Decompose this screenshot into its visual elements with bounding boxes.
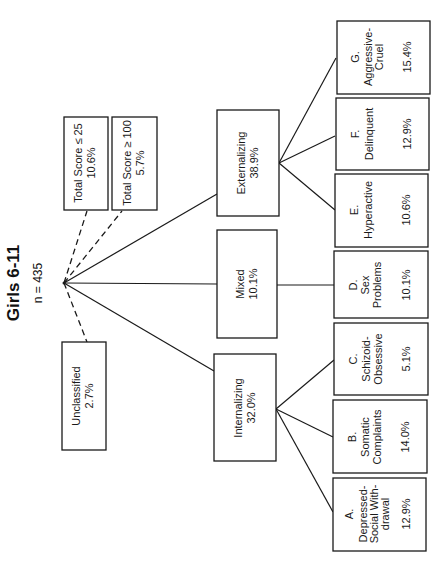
syndrome-name-line: Schizoid-	[360, 336, 372, 382]
node-label: Total Score ≥ 100	[121, 120, 133, 206]
syndrome-letter: A.	[343, 509, 355, 519]
edge-root-mixed	[64, 283, 217, 284]
node-label: Externalizing	[235, 132, 247, 195]
syndrome-name-line: Somatic	[359, 417, 371, 457]
node-label: Mixed	[234, 269, 246, 298]
syndrome-letter: D.	[347, 280, 359, 291]
syndrome-letter: G.	[349, 51, 361, 63]
diagram-title: Girls 6-11	[4, 245, 23, 322]
syndrome-letter: B.	[346, 432, 358, 442]
node-syndrome-B: B. Somatic Complaints 14.0%	[333, 400, 427, 473]
syndrome-letter: F.	[349, 130, 361, 139]
edge-int-A	[276, 409, 333, 512]
node-syndrome-E: E. Hyperactive 10.6%	[335, 174, 428, 247]
node-value: 10.1%	[247, 268, 259, 299]
node-syndrome-C: C. Schizoid- Obsessive 5.1%	[334, 323, 428, 395]
edge-ext-F	[279, 136, 335, 163]
node-value: 38.9%	[248, 147, 260, 178]
node-internalizing: Internalizing 32.0%	[214, 354, 276, 461]
node-value: 32.0%	[245, 392, 257, 423]
edge-int-B	[276, 409, 333, 437]
syndrome-value: 15.4%	[401, 41, 413, 72]
syndrome-value: 14.0%	[399, 421, 411, 452]
node-value: 10.6%	[85, 147, 97, 178]
node-syndrome-A: A. Depressed- Social With- drawal 12.9%	[333, 478, 426, 551]
node-label: Unclassified	[70, 366, 82, 425]
syndrome-letter: E.	[348, 205, 360, 215]
node-syndrome-D: D. Sex Problems 10.1%	[334, 251, 428, 318]
node-unclassified: Unclassified 2.7%	[62, 342, 106, 450]
node-value: 5.7%	[134, 150, 146, 175]
diagram-stage: Girls 6-11 n = 435 Total Score ≤ 25 10.6…	[0, 0, 442, 567]
syndrome-name-line: Hyperactive	[362, 181, 374, 239]
node-syndrome-F: F. Delinquent 12.9%	[336, 98, 429, 170]
tree-diagram: Girls 6-11 n = 435 Total Score ≤ 25 10.6…	[0, 0, 442, 567]
root-node	[63, 282, 66, 285]
syndrome-value: 10.1%	[400, 269, 412, 300]
syndrome-value: 5.1%	[400, 346, 412, 371]
edge-ext-G	[279, 58, 336, 163]
syndrome-letter: C.	[347, 354, 359, 365]
node-externalizing: Externalizing 38.9%	[217, 110, 279, 216]
syndrome-name-line: Sex	[359, 275, 371, 294]
syndrome-name-line: Problems	[371, 261, 383, 308]
syndrome-value: 12.9%	[401, 118, 413, 149]
node-syndrome-G: G. Aggressive- Cruel 15.4%	[337, 21, 430, 94]
sample-size: n = 435	[31, 262, 45, 303]
edge-int-C	[276, 360, 334, 409]
node-mixed: Mixed 10.1%	[217, 230, 277, 338]
syndrome-value: 10.6%	[400, 194, 412, 225]
syndrome-value: 12.9%	[400, 498, 412, 529]
node-label: Total Score ≤ 25	[72, 123, 84, 202]
syndrome-name-line: Delinquent	[363, 108, 375, 161]
syndrome-name-line: Cruel	[373, 44, 385, 70]
node-total-score-high: Total Score ≥ 100 5.7%	[112, 117, 157, 210]
node-value: 2.7%	[83, 383, 95, 408]
syndrome-name-line: drawal	[379, 498, 391, 530]
edge-root-high	[64, 211, 122, 283]
node-label: Internalizing	[232, 378, 244, 437]
edge-ext-E	[279, 163, 335, 210]
node-total-score-low: Total Score ≤ 25 10.6%	[64, 117, 108, 210]
edge-root-unclassified	[64, 283, 87, 342]
syndrome-name-line: Obsessive	[372, 333, 384, 384]
syndrome-name-line: Complaints	[371, 409, 383, 465]
